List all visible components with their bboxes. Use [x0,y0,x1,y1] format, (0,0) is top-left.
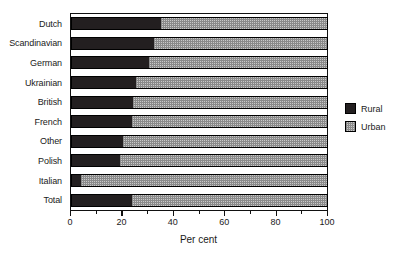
bar-segment-rural [72,195,132,206]
chart-legend: RuralUrban [345,103,386,132]
category-label: British [0,92,66,112]
bar-segment-urban [132,195,327,206]
legend-label: Rural [361,104,383,114]
bar-segment-rural [72,175,81,186]
x-axis-tick-marks [70,211,327,216]
bar-segment-urban [81,175,327,186]
bar-group [71,14,328,210]
x-axis-tick-label: 100 [319,217,334,227]
bar-segment-rural [72,57,149,68]
stacked-bar[interactable] [71,76,328,89]
x-axis-tick-label: 0 [67,217,72,227]
category-label: Scandinavian [0,34,66,54]
bar-segment-urban [149,57,328,68]
stacked-bar[interactable] [71,174,328,187]
legend-swatch-urban-icon [345,121,356,132]
category-label: Ukrainian [0,73,66,93]
x-axis-major-tick [121,211,122,216]
category-label: Dutch [0,14,66,34]
bar-slot [71,53,328,73]
bar-segment-urban [154,38,327,49]
category-label: French [0,112,66,132]
x-axis-minor-tick [250,211,251,214]
bar-segment-urban [123,136,327,147]
x-axis-minor-tick [301,211,302,214]
x-axis-major-tick [276,211,277,216]
category-label: Polish [0,151,66,171]
bar-slot [71,132,328,152]
category-label: Italian [0,171,66,191]
bar-segment-urban [161,18,327,29]
stacked-bar-chart: DutchScandinavianGermanUkrainianBritishF… [0,0,404,264]
bar-slot [71,34,328,54]
bar-segment-rural [72,155,120,166]
bar-segment-urban [133,97,327,108]
bar-slot [71,171,328,191]
plot-area [70,14,328,211]
x-axis-major-tick [173,211,174,216]
category-label: German [0,53,66,73]
x-axis-minor-tick [147,211,148,214]
bar-segment-rural [72,38,154,49]
category-label: Other [0,132,66,152]
bar-segment-rural [72,136,123,147]
category-axis: DutchScandinavianGermanUkrainianBritishF… [0,14,66,210]
legend-swatch-rural-icon [345,103,356,114]
x-axis-tick-label: 20 [116,217,126,227]
stacked-bar[interactable] [71,154,328,167]
x-axis-minor-tick [96,211,97,214]
bar-segment-urban [136,77,327,88]
category-label: Total [0,190,66,210]
bar-segment-urban [120,155,327,166]
x-axis-major-tick [70,211,71,216]
stacked-bar[interactable] [71,135,328,148]
bar-segment-urban [132,116,327,127]
x-axis-major-tick [327,211,328,216]
stacked-bar[interactable] [71,115,328,128]
x-axis-minor-tick [199,211,200,214]
legend-label: Urban [361,122,386,132]
stacked-bar[interactable] [71,56,328,69]
bar-slot [71,112,328,132]
bar-slot [71,92,328,112]
bar-segment-rural [72,77,136,88]
x-axis-tick-label: 40 [168,217,178,227]
x-axis-title: Per cent [70,234,327,245]
x-axis-major-tick [224,211,225,216]
bar-segment-rural [72,18,161,29]
bar-slot [71,14,328,34]
stacked-bar[interactable] [71,194,328,207]
bar-segment-rural [72,116,132,127]
bar-segment-rural [72,97,133,108]
x-axis-tick-label: 60 [219,217,229,227]
bar-slot [71,73,328,93]
legend-item-rural[interactable]: Rural [345,103,386,114]
stacked-bar[interactable] [71,37,328,50]
bar-slot [71,151,328,171]
x-axis-tick-label: 80 [271,217,281,227]
stacked-bar[interactable] [71,96,328,109]
legend-item-urban[interactable]: Urban [345,121,386,132]
bar-slot [71,190,328,210]
x-axis-tick-labels: 020406080100 [70,217,327,230]
stacked-bar[interactable] [71,17,328,30]
